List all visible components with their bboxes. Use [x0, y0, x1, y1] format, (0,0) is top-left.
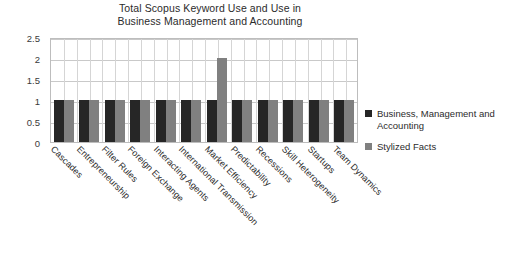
y-axis-tick-label: 0 — [35, 138, 40, 149]
y-axis: 2.521.510.50 — [0, 38, 44, 143]
chart-title-line-2: Business Management and Accounting — [60, 15, 360, 28]
bar-group — [51, 39, 77, 142]
bar-group — [306, 39, 332, 142]
legend-item[interactable]: Stylized Facts — [365, 141, 523, 153]
bar — [89, 100, 99, 142]
bar-group — [281, 39, 307, 142]
y-axis-tick-label: 2.5 — [27, 33, 40, 44]
chart-title-line-1: Total Scopus Keyword Use and Use in — [60, 2, 360, 15]
y-axis-tick-label: 1.5 — [27, 75, 40, 86]
bar — [79, 100, 89, 142]
bar — [242, 100, 252, 142]
bar — [283, 100, 293, 142]
bar — [207, 100, 217, 142]
bar — [217, 58, 227, 142]
bar-group — [230, 39, 256, 142]
chart-title: Total Scopus Keyword Use and Use in Busi… — [60, 2, 360, 28]
chart-legend: Business, Management and AccountingStyli… — [365, 108, 523, 162]
bars-layer — [51, 39, 357, 142]
bar — [293, 100, 303, 142]
bar — [309, 100, 319, 142]
x-axis: CascadesEntrepreneurshipFilter RulesFore… — [50, 144, 358, 256]
bar-group — [153, 39, 179, 142]
bar — [319, 100, 329, 142]
bar — [105, 100, 115, 142]
plot-area-wrapper — [50, 38, 358, 143]
bar — [64, 100, 74, 142]
legend-swatch-icon — [365, 110, 372, 117]
y-axis-tick-label: 0.5 — [27, 117, 40, 128]
bar-group — [77, 39, 103, 142]
bar — [115, 100, 125, 142]
bar — [54, 100, 64, 142]
bar — [156, 100, 166, 142]
legend-label: Business, Management and Accounting — [377, 108, 523, 132]
y-axis-tick-label: 2 — [35, 54, 40, 65]
bar-chart: Total Scopus Keyword Use and Use in Busi… — [0, 0, 528, 259]
bar — [140, 100, 150, 142]
plot-area — [50, 38, 358, 143]
bar — [166, 100, 176, 142]
bar-group — [179, 39, 205, 142]
bar — [130, 100, 140, 142]
bar — [191, 100, 201, 142]
bar-group — [332, 39, 358, 142]
bar — [334, 100, 344, 142]
bar — [232, 100, 242, 142]
bar — [344, 100, 354, 142]
bar-group — [102, 39, 128, 142]
bar — [268, 100, 278, 142]
bar — [258, 100, 268, 142]
legend-label: Stylized Facts — [377, 141, 436, 153]
y-axis-tick-label: 1 — [35, 96, 40, 107]
bar-group — [128, 39, 154, 142]
bar-group — [204, 39, 230, 142]
bar-group — [255, 39, 281, 142]
bar — [181, 100, 191, 142]
legend-swatch-icon — [365, 143, 372, 150]
legend-item[interactable]: Business, Management and Accounting — [365, 108, 523, 132]
